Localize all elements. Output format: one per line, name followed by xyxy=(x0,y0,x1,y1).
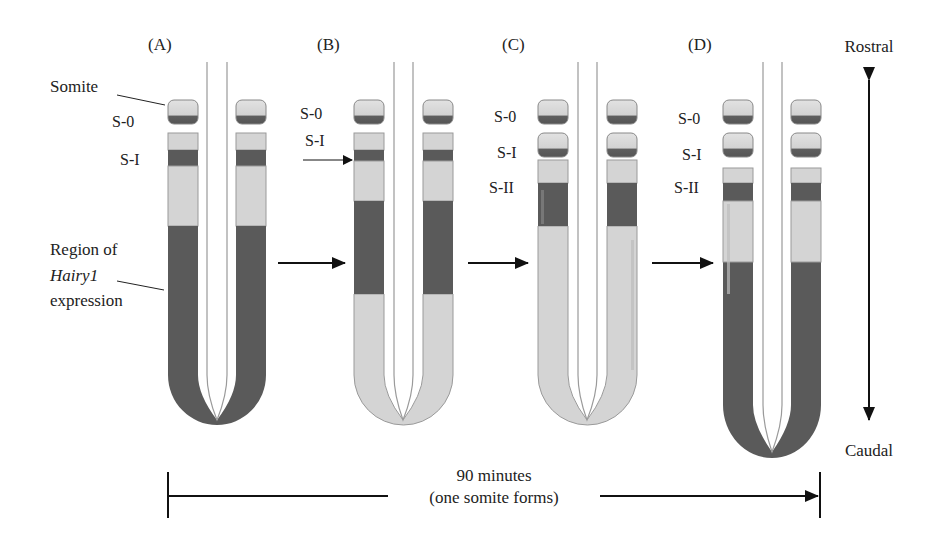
label-s1: S-I xyxy=(682,146,702,163)
panel-a-label: (A) xyxy=(148,35,172,54)
somite-s0-right xyxy=(423,100,453,124)
somite-s0-right xyxy=(791,100,821,124)
region-leader-line xyxy=(117,281,164,290)
region-callout-3: expression xyxy=(50,291,123,310)
neural-tube xyxy=(207,62,227,420)
label-s2: S-II xyxy=(674,179,699,196)
neural-tube xyxy=(763,62,782,452)
somite-s0-right xyxy=(607,100,637,124)
label-s2: S-II xyxy=(489,179,514,196)
region-callout-2: Hairy1 xyxy=(49,266,98,285)
somite-callout: Somite xyxy=(50,77,98,96)
panel-c: (C) S-0 S-I S-II xyxy=(489,35,637,425)
label-s0: S-0 xyxy=(300,105,322,122)
timeline: 90 minutes (one somite forms) xyxy=(168,466,820,518)
label-s1: S-I xyxy=(305,132,325,149)
somite-s1-right xyxy=(607,133,637,157)
label-s0: S-0 xyxy=(678,110,700,127)
somite-s1-left xyxy=(538,133,568,157)
panel-b-label: (B) xyxy=(317,35,340,54)
panel-d-label: (D) xyxy=(688,35,712,54)
panel-b: (B) S-0 S-I xyxy=(300,35,453,425)
timeline-duration: 90 minutes xyxy=(456,466,531,485)
somite-s1-right xyxy=(791,133,821,157)
timeline-caption: (one somite forms) xyxy=(429,488,558,507)
label-s1: S-I xyxy=(120,151,140,168)
panel-a: (A) S-0 S-I Somite Region of Hairy1 expr… xyxy=(49,35,266,425)
label-s0: S-0 xyxy=(494,108,516,125)
somite-s0-right xyxy=(236,100,266,124)
somite-s0-left xyxy=(354,100,384,124)
neural-tube xyxy=(394,62,413,420)
somite-leader-line xyxy=(117,95,165,105)
somite-s1-left xyxy=(723,133,753,157)
somitogenesis-diagram: (A) S-0 S-I Somite Region of Hairy1 expr… xyxy=(0,0,941,547)
neural-tube xyxy=(578,62,597,420)
rostral-caudal-axis: Rostral Caudal xyxy=(844,37,893,460)
label-s0: S-0 xyxy=(112,113,134,130)
somite-s0-left xyxy=(723,100,753,124)
panel-d: (D) S-0 S-I S-II xyxy=(674,35,821,458)
region-callout-1: Region of xyxy=(50,240,118,259)
panel-c-label: (C) xyxy=(502,35,525,54)
label-s1: S-I xyxy=(497,144,517,161)
somite-s0-left xyxy=(538,100,568,124)
caudal-label: Caudal xyxy=(845,441,893,460)
somite-s0-left xyxy=(168,100,198,124)
rostral-label: Rostral xyxy=(844,37,893,56)
